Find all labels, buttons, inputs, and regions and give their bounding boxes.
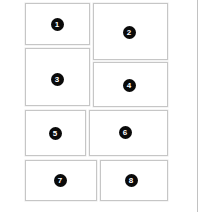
panel-number-badge-2: 2 <box>123 26 136 39</box>
right-edge-divider <box>197 0 198 212</box>
panel-number-badge-3: 3 <box>51 73 64 86</box>
panel-layout-canvas: 12345678 <box>0 0 210 212</box>
panel-number-badge-1: 1 <box>51 18 64 31</box>
panel-number-badge-8: 8 <box>125 174 138 187</box>
panel-number-badge-4: 4 <box>123 79 136 92</box>
panel-number-badge-6: 6 <box>119 126 132 139</box>
panel-number-badge-7: 7 <box>54 174 67 187</box>
panel-number-badge-5: 5 <box>49 127 62 140</box>
